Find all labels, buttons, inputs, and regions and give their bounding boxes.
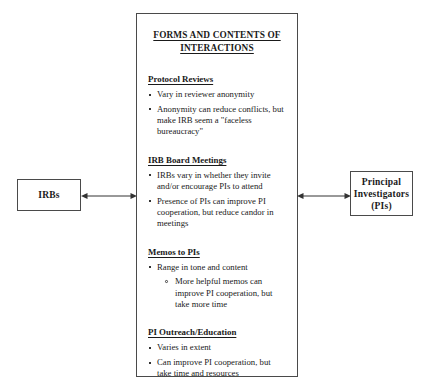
section-heading: Memos to PIs: [148, 247, 200, 258]
principal-investigators-box: Principal Investigators (PIs): [350, 171, 413, 216]
bullet-text: Vary in reviewer anonymity: [157, 89, 254, 99]
connector-center-to-pis-arrow: [297, 190, 351, 202]
bullet-text: Presence of PIs can improve PI cooperati…: [157, 196, 274, 229]
panel-title: FORMS AND CONTENTS OF INTERACTIONS: [150, 29, 284, 55]
section-bullet-list: Varies in extent Can improve PI cooperat…: [148, 342, 286, 379]
section-bullet-list: Vary in reviewer anonymity Anonymity can…: [148, 89, 286, 138]
list-item: Range in tone and content More helpful m…: [148, 262, 286, 311]
list-item: IRBs vary in whether they invite and/or …: [148, 170, 286, 193]
pi-box-line-1: Principal: [354, 176, 409, 188]
section-memos-to-pis: Memos to PIs Range in tone and content M…: [148, 241, 286, 311]
section-protocol-reviews: Protocol Reviews Vary in reviewer anonym…: [148, 68, 286, 138]
pi-box-label: Principal Investigators (PIs): [354, 176, 409, 212]
bullet-text: Can improve PI cooperation, but take tim…: [157, 357, 271, 378]
diagram-canvas: IRBs FORMS AND CONTENTS OF INTERACTIONS …: [0, 0, 430, 389]
sub-list-item: More helpful memos can improve PI cooper…: [164, 276, 286, 310]
list-item: Vary in reviewer anonymity: [148, 89, 286, 100]
bullet-text: Varies in extent: [157, 342, 211, 352]
list-item: Presence of PIs can improve PI cooperati…: [148, 196, 286, 230]
bullet-text: IRBs vary in whether they invite and/or …: [157, 170, 271, 191]
irbs-box: IRBs: [17, 179, 81, 211]
bullet-text: Range in tone and content: [157, 262, 248, 272]
section-pi-outreach-education: PI Outreach/Education Varies in extent C…: [148, 321, 286, 379]
panel-title-line-1: FORMS AND CONTENTS OF: [150, 29, 284, 42]
irbs-box-label: IRBs: [38, 189, 59, 201]
pi-box-line-3: (PIs): [354, 200, 409, 212]
connector-irbs-to-center-arrow: [81, 190, 137, 202]
section-bullet-list: Range in tone and content More helpful m…: [148, 262, 286, 311]
section-heading: IRB Board Meetings: [148, 155, 226, 166]
section-irb-board-meetings: IRB Board Meetings IRBs vary in whether …: [148, 149, 286, 230]
sub-bullet-text: More helpful memos can improve PI cooper…: [175, 276, 272, 309]
list-item: Can improve PI cooperation, but take tim…: [148, 357, 286, 380]
list-item: Varies in extent: [148, 342, 286, 353]
section-heading: Protocol Reviews: [148, 74, 213, 85]
forms-and-contents-panel: FORMS AND CONTENTS OF INTERACTIONS Proto…: [136, 13, 298, 377]
list-item: Anonymity can reduce conflicts, but make…: [148, 104, 286, 138]
bullet-text: Anonymity can reduce conflicts, but make…: [157, 104, 284, 137]
section-bullet-list: IRBs vary in whether they invite and/or …: [148, 170, 286, 230]
pi-box-line-2: Investigators: [354, 188, 409, 200]
section-heading: PI Outreach/Education: [148, 327, 236, 338]
sub-bullet-list: More helpful memos can improve PI cooper…: [157, 276, 286, 310]
panel-title-line-2: INTERACTIONS: [150, 42, 284, 55]
